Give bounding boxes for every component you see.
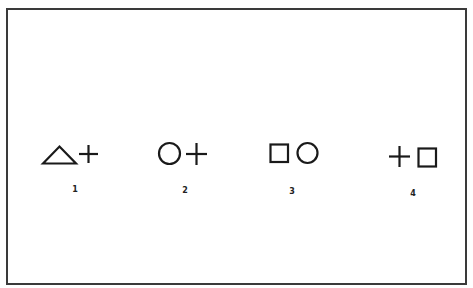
- pair-label-4: 4: [410, 189, 416, 198]
- square-icon: [419, 149, 437, 167]
- square-icon: [271, 145, 289, 163]
- circle-icon: [298, 143, 318, 163]
- pair-label-1: 1: [72, 185, 78, 194]
- plus-icon: [186, 143, 207, 165]
- pair-4: [389, 146, 436, 167]
- circle-icon: [159, 143, 180, 164]
- pair-label-2: 2: [182, 186, 188, 195]
- triangle-icon: [43, 147, 76, 164]
- pair-label-3: 3: [289, 187, 295, 196]
- pair-3: [271, 143, 318, 163]
- pair-2: [159, 143, 207, 165]
- plus-icon: [79, 145, 98, 163]
- shapes-canvas: [0, 0, 473, 288]
- pair-1: [43, 145, 98, 164]
- plus-icon: [389, 146, 410, 167]
